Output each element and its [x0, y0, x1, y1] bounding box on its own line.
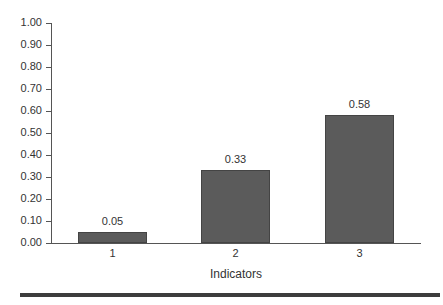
x-axis-line [51, 243, 421, 244]
y-tick [46, 67, 51, 68]
x-tick-label: 2 [201, 247, 271, 259]
bottom-rule [20, 293, 440, 297]
y-tick-label: 0.90 [0, 38, 42, 50]
y-tick [46, 221, 51, 222]
y-tick-label: 0.70 [0, 82, 42, 94]
y-tick-label: 0.30 [0, 170, 42, 182]
y-tick [46, 45, 51, 46]
y-tick [46, 89, 51, 90]
y-tick [46, 155, 51, 156]
bar-2 [201, 170, 270, 243]
y-tick [46, 199, 51, 200]
x-tick-label: 3 [325, 247, 395, 259]
y-tick-label: 0.40 [0, 148, 42, 160]
bar-3 [325, 115, 394, 243]
y-tick-label: 1.00 [0, 16, 42, 28]
bar-1 [78, 232, 147, 243]
y-tick-label: 0.80 [0, 60, 42, 72]
y-tick [46, 111, 51, 112]
x-tick-label: 1 [78, 247, 148, 259]
bar-value-label: 0.33 [201, 153, 271, 165]
x-axis-title: Indicators [51, 267, 421, 281]
y-tick [46, 23, 51, 24]
y-tick-label: 0.60 [0, 104, 42, 116]
bar-value-label: 0.58 [325, 98, 395, 110]
y-tick-label: 0.50 [0, 126, 42, 138]
y-axis-line [51, 23, 52, 243]
bar-value-label: 0.05 [78, 215, 148, 227]
y-tick-label: 0.10 [0, 214, 42, 226]
y-tick [46, 133, 51, 134]
y-tick [46, 177, 51, 178]
y-tick-label: 0.00 [0, 236, 42, 248]
y-tick-label: 0.20 [0, 192, 42, 204]
